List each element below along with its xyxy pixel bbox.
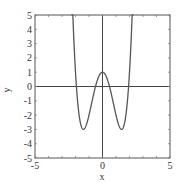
y-tick-label: 3 (27, 38, 32, 49)
y-tick-label: 4 (27, 24, 32, 35)
y-tick-label: -2 (24, 110, 32, 121)
x-axis-label: x (100, 171, 105, 182)
y-tick-label: 0 (27, 81, 32, 92)
y-tick-label: -1 (24, 95, 32, 106)
x-tick-label: -5 (31, 160, 39, 171)
tick-labels: -5-4-3-2-1012345-505 (24, 10, 173, 172)
y-tick-label: -4 (24, 138, 32, 149)
x-tick-label: 0 (100, 160, 105, 171)
y-tick-label: -3 (24, 124, 32, 135)
y-axis-label: y (1, 88, 12, 93)
y-tick-label: 2 (27, 52, 32, 63)
x-tick-label: 5 (168, 160, 173, 171)
y-tick-label: 1 (27, 67, 32, 78)
y-tick-label: 5 (27, 10, 32, 21)
reference-lines (35, 15, 170, 158)
chart: -5-4-3-2-1012345-505 x y (0, 0, 180, 184)
